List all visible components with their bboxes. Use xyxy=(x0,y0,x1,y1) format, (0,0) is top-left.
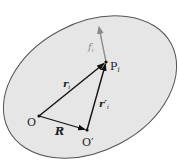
label-O-prime: O′ xyxy=(82,136,94,149)
point-O xyxy=(37,114,40,117)
label-R: R xyxy=(54,125,64,138)
point-P-i xyxy=(104,60,107,63)
diagram-canvas: O O′ Pi R ri r′i fi xyxy=(0,0,180,163)
label-O: O xyxy=(27,116,36,129)
point-O-prime xyxy=(85,128,88,131)
